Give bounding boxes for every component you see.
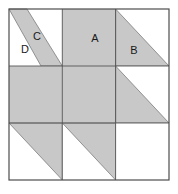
- quilt-block-diagram: A B C D: [0, 0, 178, 194]
- cell-r2c2: [62, 66, 115, 123]
- piece-label-a: A: [91, 32, 99, 44]
- cell-r3c3: [116, 123, 169, 180]
- cell-r2c1-square: [9, 66, 62, 123]
- cell-r2c1: [9, 66, 62, 123]
- piece-a-square: [62, 9, 115, 66]
- piece-label-b: B: [130, 44, 137, 56]
- cell-r3c2: [62, 123, 115, 180]
- cell-r3c3-square: [116, 123, 169, 180]
- cell-r1c2: [62, 9, 115, 66]
- cell-r2c3: [116, 66, 169, 123]
- cell-r2c2-square: [62, 66, 115, 123]
- piece-label-c: C: [33, 30, 41, 42]
- quilt-block-svg: A B C D: [0, 0, 178, 194]
- cell-r1c3: [116, 9, 169, 66]
- cell-r3c1: [9, 123, 62, 180]
- piece-label-d: D: [21, 43, 29, 55]
